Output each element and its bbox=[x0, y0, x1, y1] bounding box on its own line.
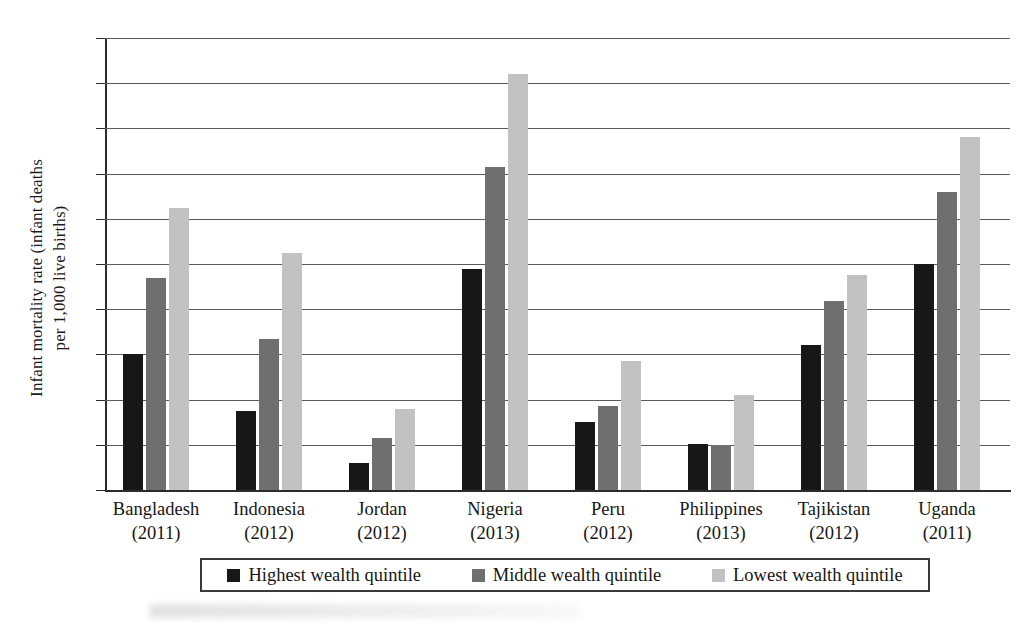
gridline bbox=[105, 83, 1010, 84]
bar bbox=[236, 411, 256, 490]
bar bbox=[575, 422, 595, 490]
bar bbox=[282, 253, 302, 490]
y-axis-tick bbox=[96, 264, 105, 265]
category-name: Philippines bbox=[679, 499, 762, 519]
bar bbox=[734, 395, 754, 490]
x-axis-line bbox=[105, 490, 1011, 492]
y-axis-tick bbox=[96, 83, 105, 84]
page-artifact bbox=[150, 604, 580, 618]
y-axis-tick bbox=[96, 490, 105, 491]
category-name: Indonesia bbox=[233, 499, 305, 519]
category-name: Uganda bbox=[918, 499, 976, 519]
y-axis-tick bbox=[96, 354, 105, 355]
gridline bbox=[105, 309, 1010, 310]
legend-swatch-icon bbox=[472, 569, 485, 582]
legend-item: Highest wealth quintile bbox=[223, 565, 425, 586]
y-axis-tick bbox=[96, 219, 105, 220]
bar bbox=[508, 74, 528, 490]
bar-chart: Infant mortality rate (infant deaths per… bbox=[0, 0, 1028, 623]
bar bbox=[259, 339, 279, 490]
bar bbox=[688, 444, 708, 490]
bar bbox=[801, 345, 821, 490]
category-name: Peru bbox=[591, 499, 625, 519]
bar bbox=[598, 406, 618, 490]
gridline bbox=[105, 38, 1010, 39]
category-year: (2011) bbox=[877, 521, 1017, 545]
bar bbox=[169, 208, 189, 491]
category-name: Nigeria bbox=[467, 499, 522, 519]
bar bbox=[621, 361, 641, 490]
legend-label: Highest wealth quintile bbox=[248, 565, 421, 586]
legend-item: Middle wealth quintile bbox=[468, 565, 666, 586]
bar bbox=[824, 301, 844, 490]
bar bbox=[123, 354, 143, 490]
gridline bbox=[105, 354, 1010, 355]
y-axis-tick bbox=[96, 38, 105, 39]
legend: Highest wealth quintileMiddle wealth qui… bbox=[200, 558, 930, 592]
gridline bbox=[105, 219, 1010, 220]
y-axis-tick bbox=[96, 128, 105, 129]
gridline bbox=[105, 264, 1010, 265]
bar bbox=[960, 137, 980, 490]
y-axis-tick bbox=[96, 445, 105, 446]
bar bbox=[847, 275, 867, 490]
y-axis-tick bbox=[96, 309, 105, 310]
bar bbox=[462, 269, 482, 490]
bar bbox=[372, 438, 392, 490]
x-category-label: Uganda(2011) bbox=[877, 497, 1017, 545]
bar bbox=[711, 445, 731, 490]
bar bbox=[395, 409, 415, 490]
y-axis-tick bbox=[96, 174, 105, 175]
bar bbox=[914, 264, 934, 490]
legend-swatch-icon bbox=[712, 569, 725, 582]
category-name: Tajikistan bbox=[798, 499, 871, 519]
bar bbox=[146, 278, 166, 490]
gridline bbox=[105, 174, 1010, 175]
category-name: Jordan bbox=[357, 499, 406, 519]
bar bbox=[937, 192, 957, 490]
legend-label: Lowest wealth quintile bbox=[733, 565, 903, 586]
bar bbox=[485, 167, 505, 490]
category-name: Bangladesh bbox=[113, 499, 199, 519]
y-axis-title: Infant mortality rate (infant deaths per… bbox=[25, 58, 71, 498]
legend-item: Lowest wealth quintile bbox=[708, 565, 907, 586]
bar bbox=[349, 463, 369, 490]
gridline bbox=[105, 400, 1010, 401]
plot-area bbox=[105, 38, 1010, 490]
y-axis-tick bbox=[96, 400, 105, 401]
legend-swatch-icon bbox=[227, 569, 240, 582]
gridline bbox=[105, 128, 1010, 129]
legend-label: Middle wealth quintile bbox=[493, 565, 662, 586]
